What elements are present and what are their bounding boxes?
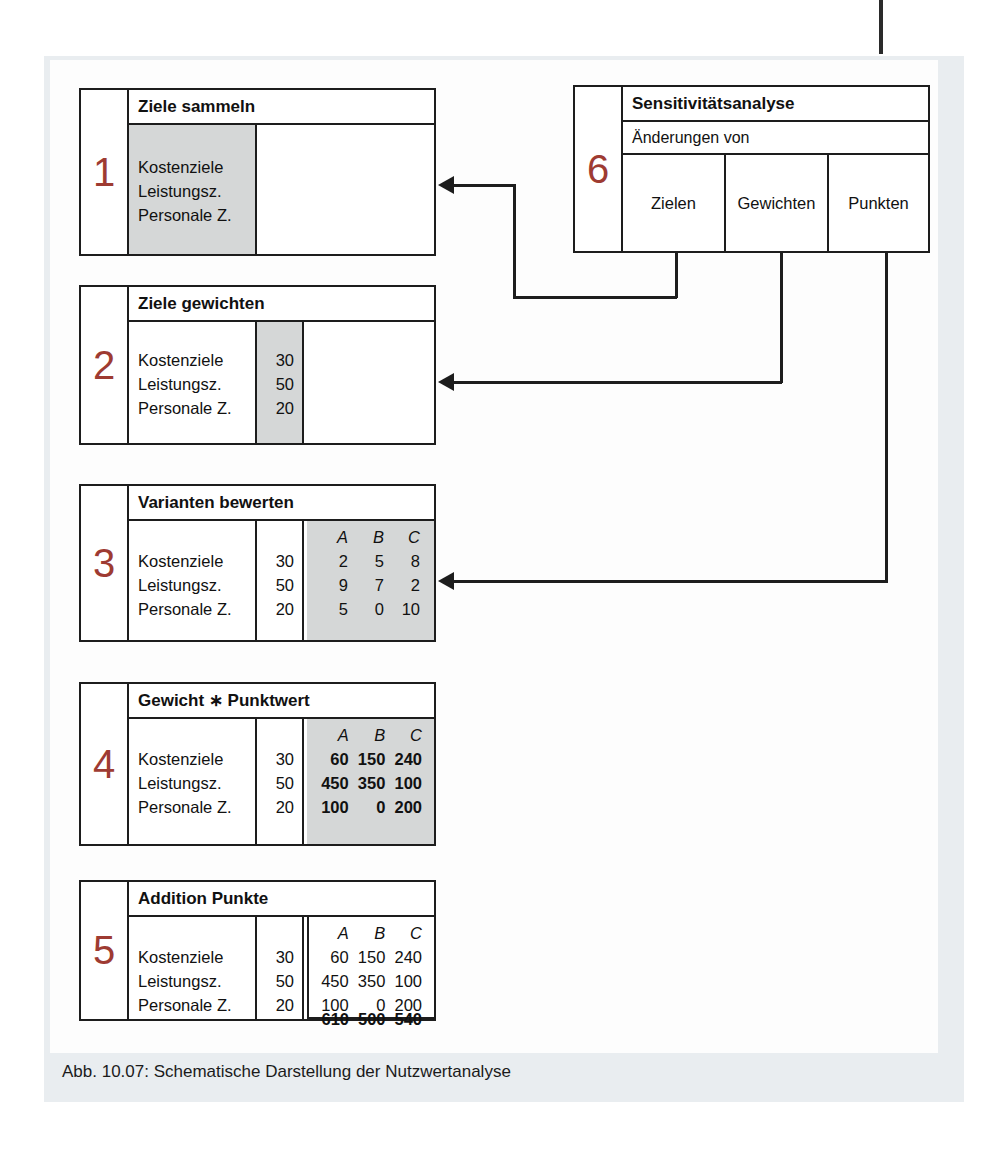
step-2-weights: 30 50 20 <box>257 348 304 420</box>
step-5-weights: 30 50 20 <box>257 945 304 1017</box>
variant-header: C <box>384 525 420 549</box>
variant-header: A <box>312 723 349 747</box>
connector-gewichten-arrowhead <box>438 373 454 391</box>
variant-header: A <box>312 525 348 549</box>
step-4-product-row: 60 150 240 <box>312 747 422 771</box>
step-4-title: Gewicht ∗ Punktwert <box>129 684 434 719</box>
step-6-subtitle: Änderungen von <box>623 122 928 155</box>
criterion-label: Personale Z. <box>129 203 434 227</box>
connector-punkten-arrowhead <box>438 572 454 590</box>
variant-header: A <box>312 921 349 945</box>
product-value: 0 <box>349 795 386 819</box>
step-4-variant-headers: A B C <box>312 723 422 747</box>
weight-value: 30 <box>257 348 304 372</box>
step-1-grid: Kostenziele Leistungsz. Personale Z. <box>129 125 434 254</box>
weight-value: 50 <box>257 969 304 993</box>
step-5-body: Addition Punkte Kostenziele Leistungsz. … <box>129 882 434 1019</box>
step-3-score-row: 9 7 2 <box>312 573 420 597</box>
weight-value: 30 <box>257 747 304 771</box>
connector-punkten-horizontal <box>452 580 888 583</box>
weight-value: 30 <box>257 549 304 573</box>
product-value: 150 <box>349 945 386 969</box>
product-value: 240 <box>385 747 422 771</box>
score-value: 5 <box>348 549 384 573</box>
step-box-2: 2 Ziele gewichten Kostenziele Leistungsz… <box>79 285 436 445</box>
step-box-5: 5 Addition Punkte Kostenziele Leistungsz… <box>79 880 436 1021</box>
step-5-product-row: 450 350 100 <box>312 969 422 993</box>
product-value: 100 <box>385 771 422 795</box>
product-value: 150 <box>349 747 386 771</box>
step-3-grid: Kostenziele Leistungsz. Personale Z. 30 … <box>129 521 434 640</box>
page-margin-rule <box>879 0 883 54</box>
step-box-1: 1 Ziele sammeln Kostenziele Leistungsz. … <box>79 88 436 256</box>
product-value: 100 <box>385 969 422 993</box>
step-number-5: 5 <box>81 882 129 1019</box>
connector-punkten-vertical <box>885 251 888 582</box>
step-2-grid: Kostenziele Leistungsz. Personale Z. 30 … <box>129 322 434 443</box>
step-box-4: 4 Gewicht ∗ Punktwert Kostenziele Leistu… <box>79 682 436 846</box>
criterion-label: Kostenziele <box>129 155 434 179</box>
step-1-body: Ziele sammeln Kostenziele Leistungsz. Pe… <box>129 90 434 254</box>
step-4-grid: Kostenziele Leistungsz. Personale Z. 30 … <box>129 719 434 844</box>
step-3-body: Varianten bewerten Kostenziele Leistungs… <box>129 486 434 640</box>
weight-value: 20 <box>257 396 304 420</box>
step-number-2: 2 <box>81 287 129 443</box>
product-value: 60 <box>312 945 349 969</box>
step-box-3: 3 Varianten bewerten Kostenziele Leistun… <box>79 484 436 642</box>
figure-caption: Abb. 10.07: Schematische Darstellung der… <box>62 1062 511 1082</box>
weight-value: 20 <box>257 597 304 621</box>
product-value: 450 <box>312 771 349 795</box>
connector-zielen-horizontal <box>513 296 677 299</box>
step-6-title: Sensitivitätsanalyse <box>623 87 928 122</box>
step-5-totals-row: 610 500 540 <box>307 1017 435 1019</box>
score-value: 10 <box>384 597 420 621</box>
step-1-labels: Kostenziele Leistungsz. Personale Z. <box>129 155 434 227</box>
step-6-column-label: Zielen <box>651 194 696 213</box>
weight-value: 50 <box>257 771 304 795</box>
weight-value: 50 <box>257 372 304 396</box>
figure-root: 1 Ziele sammeln Kostenziele Leistungsz. … <box>0 0 1008 1159</box>
variant-header: B <box>349 723 386 747</box>
variant-header: C <box>385 723 422 747</box>
step-3-score-row: 5 0 10 <box>312 597 420 621</box>
weight-value: 50 <box>257 573 304 597</box>
connector-gewichten-horizontal <box>452 381 782 384</box>
variant-header: C <box>385 921 422 945</box>
step-6-column-label: Punkten <box>848 194 909 213</box>
connector-zielen-arrowhead <box>438 176 454 194</box>
step-5-grid: Kostenziele Leistungsz. Personale Z. 30 … <box>129 917 434 1019</box>
product-value: 350 <box>349 771 386 795</box>
step-number-1: 1 <box>81 90 129 254</box>
connector-zielen-vertical-down <box>675 251 678 298</box>
step-6-column-zielen: Zielen <box>623 155 726 251</box>
product-value: 350 <box>349 969 386 993</box>
step-3-score-row: 2 5 8 <box>312 549 420 573</box>
step-6-column-gewichten: Gewichten <box>726 155 829 251</box>
step-number-4: 4 <box>81 684 129 844</box>
connector-zielen-vertical-up <box>513 184 516 298</box>
step-4-product-row: 450 350 100 <box>312 771 422 795</box>
product-value: 200 <box>385 795 422 819</box>
variant-header: B <box>348 525 384 549</box>
product-value: 240 <box>385 945 422 969</box>
step-6-column-label: Gewichten <box>738 194 816 213</box>
variant-header: B <box>349 921 386 945</box>
product-value: 450 <box>312 969 349 993</box>
step-4-body: Gewicht ∗ Punktwert Kostenziele Leistung… <box>129 684 434 844</box>
score-value: 7 <box>348 573 384 597</box>
step-4-weights: 30 50 20 <box>257 747 304 819</box>
weight-value: 20 <box>257 993 304 1017</box>
score-value: 2 <box>312 549 348 573</box>
criterion-label: Leistungsz. <box>129 179 434 203</box>
step-6-body: Sensitivitätsanalyse Änderungen von Ziel… <box>623 87 928 251</box>
step-number-3: 3 <box>81 486 129 640</box>
step-3-weights: 30 50 20 <box>257 549 304 621</box>
step-2-body: Ziele gewichten Kostenziele Leistungsz. … <box>129 287 434 443</box>
connector-gewichten-vertical <box>780 251 783 383</box>
step-box-6: 6 Sensitivitätsanalyse Änderungen von Zi… <box>573 85 930 253</box>
step-4-product-row: 100 0 200 <box>312 795 422 819</box>
score-value: 0 <box>348 597 384 621</box>
step-number-6: 6 <box>575 87 623 251</box>
score-value: 8 <box>384 549 420 573</box>
step-5-title: Addition Punkte <box>129 882 434 917</box>
